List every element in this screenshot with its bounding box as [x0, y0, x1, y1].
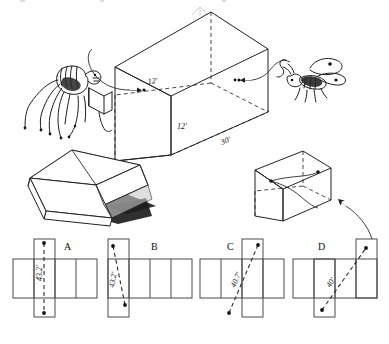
- net-D-start-dot: [320, 308, 324, 312]
- net-B: B 43.2': [107, 239, 192, 317]
- net-A-label: A: [64, 241, 72, 252]
- net-A-outline: [13, 239, 97, 317]
- small-box-with-path: [255, 151, 372, 239]
- net-C-label: C: [227, 241, 234, 252]
- opened-carton-illustration: [28, 150, 156, 226]
- net-D-end-dot: [364, 246, 368, 250]
- net-A: A 43.2': [13, 239, 97, 317]
- small-box-visible-edges: [255, 151, 331, 221]
- net-C-end-dot: [256, 243, 260, 247]
- net-C-distance: 40.7': [229, 271, 244, 289]
- net-B-distance: 43.2': [107, 271, 119, 288]
- net-C: C 40.7': [200, 239, 284, 317]
- fly-end-dot: [237, 78, 240, 81]
- dimension-label-height-top: 12': [147, 76, 158, 86]
- net-B-start-dot: [111, 244, 115, 248]
- dimension-label-height-front: 12': [177, 122, 187, 131]
- fly-leader-arrow: [234, 60, 290, 82]
- net-A-start-dot: [42, 241, 46, 245]
- main-box: 12' 12' 30': [88, 12, 290, 161]
- top-cutoff-marks: [20, 0, 226, 17]
- net-A-distance: 43.2': [35, 265, 44, 281]
- net-C-start-dot: [227, 311, 231, 315]
- spider: [24, 66, 112, 139]
- net-D: D 40': [293, 239, 377, 317]
- net-D-label: D: [318, 241, 325, 252]
- net-A-end-dot: [42, 311, 46, 315]
- small-box-callout-arrow: [338, 199, 372, 239]
- net-C-outline: [200, 239, 284, 317]
- spider-start-dot: [142, 88, 145, 91]
- dimension-label-length: 30': [218, 135, 232, 147]
- figure-canvas: 12' 12' 30': [0, 0, 389, 344]
- main-box-visible-edges: [115, 12, 268, 161]
- net-B-label: B: [151, 241, 158, 252]
- net-B-end-dot: [123, 303, 127, 307]
- net-B-outline: [108, 239, 192, 317]
- fly: [277, 58, 346, 102]
